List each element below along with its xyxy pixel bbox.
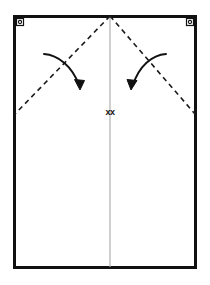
top-right-grommet-icon <box>187 19 194 26</box>
top-right-grommet-inner <box>188 20 191 23</box>
panel-outline <box>15 17 196 268</box>
fold-diagram-canvas: xx <box>0 0 210 285</box>
center-mark-label: xx <box>105 107 115 117</box>
top-left-grommet-icon <box>17 19 24 26</box>
top-left-grommet-inner <box>18 20 21 23</box>
fold-diagram-svg: xx <box>0 0 210 285</box>
